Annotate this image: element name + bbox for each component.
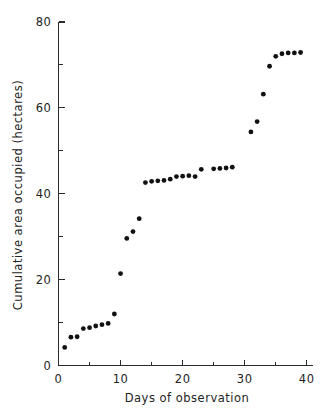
- data-point: [168, 177, 173, 182]
- figure-container: 020406080010203040 Days of observation C…: [0, 0, 326, 416]
- data-point: [69, 335, 74, 340]
- y-tick-label: 40: [36, 187, 52, 201]
- data-point: [149, 179, 154, 184]
- data-point: [93, 324, 98, 329]
- data-point: [255, 119, 260, 124]
- data-point: [211, 166, 216, 171]
- data-point: [81, 326, 86, 331]
- y-tick-label: 20: [36, 273, 52, 287]
- x-tick-label: 10: [113, 372, 129, 386]
- y-tick-label: 80: [36, 15, 52, 29]
- data-point: [249, 130, 254, 135]
- data-point: [230, 165, 235, 170]
- data-point: [193, 174, 198, 179]
- data-point: [118, 271, 123, 276]
- data-point: [267, 64, 272, 69]
- data-point: [292, 51, 297, 56]
- x-tick-label: 30: [237, 372, 253, 386]
- data-point: [75, 334, 80, 339]
- data-point: [174, 174, 179, 179]
- data-point: [180, 174, 185, 179]
- data-point: [100, 322, 105, 327]
- data-point: [199, 167, 204, 172]
- data-point: [143, 180, 148, 185]
- data-point: [87, 325, 92, 330]
- x-tick-label: 20: [175, 372, 191, 386]
- axes-group: [59, 22, 314, 366]
- data-point: [286, 51, 291, 56]
- scatter-plot: 020406080010203040 Days of observation C…: [0, 0, 326, 416]
- y-tick-label: 60: [36, 101, 52, 115]
- x-tick-label: 40: [299, 372, 315, 386]
- data-point: [298, 50, 303, 55]
- data-point: [261, 92, 266, 97]
- data-point: [137, 216, 142, 221]
- data-point: [280, 51, 285, 56]
- data-point: [273, 54, 278, 59]
- data-point: [62, 345, 67, 350]
- y-tick-label: 0: [44, 359, 52, 373]
- tick-marks-group: [59, 22, 307, 366]
- data-point: [131, 229, 136, 234]
- data-point: [106, 321, 111, 326]
- data-points-group: [62, 50, 303, 350]
- data-point: [155, 178, 160, 183]
- x-tick-label: 0: [55, 372, 63, 386]
- data-point: [224, 166, 229, 171]
- y-axis-label: Cumulative area occupied (hectares): [11, 80, 25, 310]
- data-point: [124, 236, 129, 241]
- data-point: [186, 173, 191, 178]
- x-axis-label: Days of observation: [125, 391, 250, 405]
- data-point: [217, 166, 222, 171]
- data-point: [162, 178, 167, 183]
- tick-labels-group: 020406080010203040: [36, 15, 315, 385]
- data-point: [112, 312, 117, 317]
